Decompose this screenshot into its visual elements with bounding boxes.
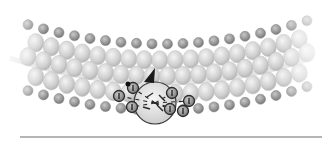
- headgroup-bead: [54, 28, 64, 38]
- lipid-bead: [222, 62, 238, 80]
- molecular-diagram: [0, 0, 322, 143]
- headgroup-bead: [209, 36, 219, 46]
- headgroup-bead: [256, 94, 266, 104]
- left-fade: [0, 0, 45, 143]
- lipid-bead: [198, 83, 214, 101]
- lipid-bead: [229, 78, 245, 96]
- headgroup-bead: [163, 39, 173, 49]
- headgroup-bead: [225, 34, 235, 44]
- headgroup-bead: [240, 31, 250, 41]
- lipid-bead: [260, 72, 276, 90]
- lipid-bead: [51, 55, 67, 73]
- headgroup-bead: [54, 94, 64, 104]
- charged-bead-minus: [178, 106, 189, 117]
- charged-bead-minus: [184, 96, 195, 107]
- lipid-bead: [175, 66, 191, 84]
- right-fade: [277, 0, 322, 143]
- headgroup-bead: [194, 38, 204, 48]
- lipid-bead: [113, 65, 129, 83]
- headgroup-bead: [256, 28, 266, 38]
- lipid-bead: [82, 61, 98, 79]
- headgroup-bead: [101, 36, 111, 46]
- lipid-bead: [129, 66, 145, 84]
- lipid-bead: [59, 75, 75, 93]
- lipid-bead: [191, 65, 207, 83]
- lipid-bead: [253, 56, 269, 74]
- lipid-bead: [206, 64, 222, 82]
- headgroup-bead: [70, 97, 80, 107]
- lipid-bead: [98, 63, 114, 81]
- charged-bead-minus: [165, 104, 176, 115]
- lipid-bead: [237, 59, 253, 77]
- lipid-bead: [160, 67, 176, 85]
- lipid-bead: [214, 81, 230, 99]
- headgroup-bead: [147, 39, 157, 49]
- headgroup-bead: [240, 97, 250, 107]
- headgroup-bead: [85, 34, 95, 44]
- headgroup-bead: [194, 104, 204, 114]
- lipid-bead: [90, 80, 106, 98]
- headgroup-bead: [101, 102, 111, 112]
- headgroup-bead: [132, 38, 142, 48]
- lipid-bead: [152, 51, 168, 69]
- lipid-bead: [245, 76, 261, 94]
- charged-bead-minus: [167, 88, 178, 99]
- lipid-bead: [67, 59, 83, 77]
- headgroup-bead: [70, 31, 80, 41]
- lipid-bead: [74, 78, 90, 96]
- charged-bead-minus: [127, 102, 138, 113]
- headgroup-bead: [116, 103, 126, 113]
- headgroup-bead: [209, 102, 219, 112]
- headgroup-bead: [178, 39, 188, 49]
- lipid-bead: [167, 51, 183, 69]
- diagram-canvas: [0, 0, 322, 143]
- headgroup-bead: [225, 100, 235, 110]
- headgroup-bead: [85, 100, 95, 110]
- charged-bead-minus: [114, 91, 125, 102]
- lipid-bead: [43, 72, 59, 90]
- headgroup-bead: [116, 37, 126, 47]
